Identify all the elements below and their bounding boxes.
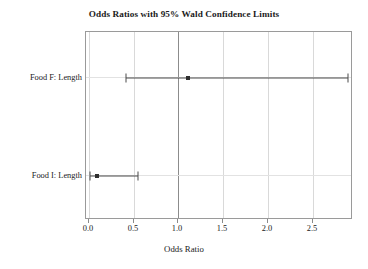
ci-line-food-f — [126, 78, 348, 79]
xtick-label-1.5: 1.5 — [217, 224, 227, 233]
plot-area — [85, 31, 352, 219]
xtick-label-0.5: 0.5 — [128, 224, 138, 233]
xtick-mark-1.0 — [177, 219, 178, 223]
ci-cap-upper-food-i — [138, 172, 139, 181]
ci-cap-lower-food-f — [126, 74, 127, 83]
xtick-mark-0 — [88, 219, 89, 223]
gridline-x-0.5 — [134, 32, 135, 218]
reference-line-1.0 — [178, 32, 179, 218]
ytick-label-food-f: Food F: Length — [30, 73, 82, 82]
xtick-label-2.5: 2.5 — [307, 224, 317, 233]
gridline-x-1.5 — [223, 32, 224, 218]
estimate-marker-food-i — [95, 174, 99, 178]
ytick-label-food-i: Food I: Length — [32, 171, 82, 180]
xtick-mark-2.0 — [267, 219, 268, 223]
ci-cap-lower-food-i — [90, 172, 91, 181]
estimate-marker-food-f — [186, 76, 190, 80]
ci-cap-upper-food-f — [348, 74, 349, 83]
xtick-mark-1.5 — [222, 219, 223, 223]
gridline-x-2.5 — [313, 32, 314, 218]
xtick-mark-0.5 — [133, 219, 134, 223]
xtick-mark-2.5 — [312, 219, 313, 223]
odds-ratio-forest-plot: Odds Ratios with 95% Wald Confidence Lim… — [0, 0, 368, 269]
xtick-label-0: 0.0 — [83, 224, 93, 233]
xtick-label-1.0: 1.0 — [172, 224, 182, 233]
gridline-x-0 — [89, 32, 90, 218]
chart-title: Odds Ratios with 95% Wald Confidence Lim… — [0, 9, 368, 19]
xtick-label-2.0: 2.0 — [262, 224, 272, 233]
gridline-x-2.0 — [268, 32, 269, 218]
x-axis-label: Odds Ratio — [0, 244, 368, 254]
